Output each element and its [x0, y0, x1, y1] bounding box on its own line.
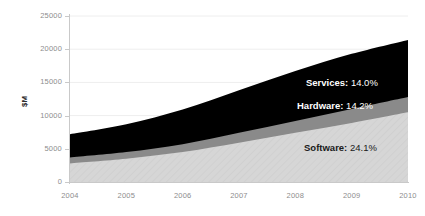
y-tick-mark: [65, 49, 69, 50]
y-tick-mark: [65, 149, 69, 150]
y-tick-label: 5000: [28, 145, 62, 153]
y-tick-mark: [65, 182, 69, 183]
x-tick-label: 2004: [61, 191, 79, 200]
x-tick-label: 2005: [118, 191, 136, 200]
software-annotation-value: 24.1%: [350, 142, 377, 153]
y-tick-mark: [65, 16, 69, 17]
x-axis-tick-labels: 2004200520062007200820092010: [0, 191, 425, 205]
hardware-annotation: Hardware: 14.2%: [297, 100, 373, 111]
services-annotation-name: Services:: [306, 77, 348, 88]
x-tick-label: 2006: [174, 191, 192, 200]
hardware-annotation-name: Hardware:: [297, 100, 343, 111]
x-tick-label: 2008: [287, 191, 305, 200]
y-tick-label: 10000: [28, 112, 62, 120]
y-tick-mark: [65, 116, 69, 117]
y-tick-label: 0: [28, 178, 62, 186]
plot-area: [70, 16, 408, 182]
x-axis-line: [69, 182, 409, 183]
x-tick-label: 2010: [399, 191, 417, 200]
y-tick-label: 15000: [28, 78, 62, 86]
y-tick-label: 25000: [28, 12, 62, 20]
stacked-area-chart: $M 0500010000150002000025000 20042005200…: [0, 0, 425, 216]
y-tick-mark: [65, 82, 69, 83]
y-axis-tick-labels: 0500010000150002000025000: [26, 0, 62, 216]
area-series-svg: [70, 16, 408, 182]
services-annotation-value: 14.0%: [351, 77, 378, 88]
software-annotation: Software: 24.1%: [304, 142, 377, 153]
y-tick-label: 20000: [28, 45, 62, 53]
x-tick-label: 2009: [343, 191, 361, 200]
x-tick-label: 2007: [230, 191, 248, 200]
software-annotation-name: Software:: [304, 142, 347, 153]
services-annotation: Services: 14.0%: [306, 77, 378, 88]
hardware-annotation-value: 14.2%: [346, 100, 373, 111]
